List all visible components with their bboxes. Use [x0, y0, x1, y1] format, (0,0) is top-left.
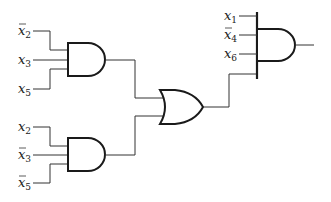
logic-circuit-diagram: x2 x3 x5 x2 x3 x5 x1 x4 — [0, 0, 331, 202]
svg-text:x5: x5 — [18, 175, 31, 192]
svg-text:x2: x2 — [18, 23, 31, 40]
or-gate — [160, 90, 203, 124]
and-gate-3 — [258, 29, 295, 61]
and1-input-x2-bar: x2 — [18, 23, 68, 50]
and2-input-x3-bar: x3 — [18, 147, 68, 164]
svg-text:x5: x5 — [18, 81, 31, 98]
and2-input-x5-bar: x5 — [18, 164, 68, 192]
svg-text:x2: x2 — [18, 119, 31, 136]
svg-text:x1: x1 — [224, 8, 237, 25]
and2-input-x2: x2 — [18, 119, 68, 146]
and3-input-x4-bar: x4 — [224, 27, 257, 44]
and1-input-x3: x3 — [18, 52, 68, 69]
svg-text:x4: x4 — [224, 27, 237, 44]
and3-input-x6: x6 — [224, 46, 257, 63]
and2-output-wire — [105, 116, 163, 155]
and3-input-x1: x1 — [224, 8, 257, 25]
and-gate-1 — [68, 43, 105, 76]
svg-text:x3: x3 — [18, 147, 31, 164]
and-gate-2 — [68, 138, 105, 171]
svg-text:x6: x6 — [224, 46, 237, 63]
or-output-wire — [203, 74, 257, 107]
and1-output-wire — [105, 60, 163, 98]
svg-text:x3: x3 — [18, 52, 31, 69]
and1-input-x5: x5 — [18, 69, 68, 98]
